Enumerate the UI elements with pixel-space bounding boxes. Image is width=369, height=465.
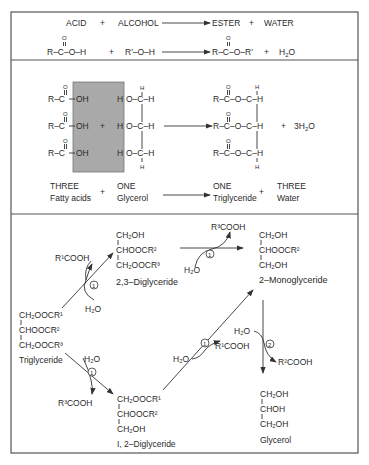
svg-text:H: H <box>117 148 123 158</box>
water-reagent: H₂O <box>173 354 189 364</box>
svg-text:H: H <box>255 84 259 90</box>
reaction-mono-to-glycerol: H₂O R²COOH 2 <box>234 300 312 373</box>
svg-text:H: H <box>117 121 123 131</box>
released-acid: R¹COOH <box>55 253 89 263</box>
svg-text:+: + <box>100 187 105 197</box>
label-acid: ACID <box>66 18 86 28</box>
svg-text:CH₂OOCR¹: CH₂OOCR¹ <box>19 310 63 320</box>
svg-text:O–C–H: O–C–H <box>126 148 154 158</box>
label-water: WATER <box>264 18 294 28</box>
panel-hydrolysis-pathway: CH₂OOCR¹ CHOOCR² CH₂OOCR³ Triglyceride C… <box>19 222 328 449</box>
svg-text:R–C: R–C <box>48 121 65 131</box>
panel-triglyceride-formation: O R–C OH O R–C OH O R–C OH + H H O–C–H H… <box>48 82 315 203</box>
svg-text:+: + <box>259 187 264 197</box>
water-reagent: H₂O <box>84 354 100 364</box>
acid-out-arrow <box>195 232 230 267</box>
svg-text:O: O <box>63 138 68 144</box>
svg-text:R–C–O–C–H: R–C–O–C–H <box>213 121 263 131</box>
svg-text:H: H <box>117 94 123 104</box>
glycerol-structure: CH₂OH CHOH CH₂OH Glycerol <box>260 389 291 445</box>
svg-text:Water: Water <box>277 193 300 203</box>
svg-text:OH: OH <box>76 121 89 131</box>
svg-text:R–C: R–C <box>48 148 65 158</box>
stoichiometry-labels: THREE Fatty acids + ONE Glycerol ONE Tri… <box>50 181 306 203</box>
svg-text:CHOOCR²: CHOOCR² <box>116 245 157 255</box>
svg-text:THREE: THREE <box>50 181 79 191</box>
svg-text:CH₂OH: CH₂OH <box>117 424 145 434</box>
triglyceride-structure: CH₂OOCR¹ CHOOCR² CH₂OOCR³ Triglyceride <box>19 310 63 365</box>
diagram-frame <box>11 12 358 453</box>
svg-text:CH₂OH: CH₂OH <box>260 389 288 399</box>
svg-text:THREE: THREE <box>277 181 306 191</box>
diglyceride-2-3-structure: CH₂OH CHOOCR² CH₂OOCR³ 2,3–Diglyceride <box>116 230 178 287</box>
plus-sign: + <box>281 121 286 131</box>
svg-text:Glycerol: Glycerol <box>117 193 148 203</box>
plus-sign: + <box>109 47 114 57</box>
water-reagent: H₂O <box>85 304 101 314</box>
diglyceride-1-2-structure: CH₂OOCR¹ CHOOCR² CH₂OH I, 2–Diglyceride <box>117 394 176 449</box>
svg-text:O: O <box>63 111 68 117</box>
svg-text:O–C–H: O–C–H <box>126 121 154 131</box>
monoglyceride-structure: CH₂OH CHOOCR² CH₂OH 2–Monoglyceride <box>259 230 328 285</box>
svg-text:H: H <box>140 164 144 170</box>
svg-text:ONE: ONE <box>117 181 136 191</box>
svg-text:CHOOCR²: CHOOCR² <box>117 409 158 419</box>
svg-text:Triglyceride: Triglyceride <box>19 355 63 365</box>
svg-text:CHOOCR²: CHOOCR² <box>19 325 60 335</box>
svg-text:ONE: ONE <box>213 181 232 191</box>
panel-esterification-general: ACID + ALCOHOL ESTER + WATER O R–C–O–H +… <box>47 18 295 58</box>
formula-water: H2O <box>279 47 295 58</box>
svg-text:OH: OH <box>76 148 89 158</box>
svg-text:O: O <box>226 84 231 90</box>
reaction-12-diglyceride-to-mono: H₂O R¹COOH 1 <box>163 290 253 390</box>
svg-text:Glycerol: Glycerol <box>260 435 291 445</box>
carbonyl-oxygen: O <box>226 35 231 41</box>
svg-text:O: O <box>226 111 231 117</box>
svg-text:R–C–O–C–H: R–C–O–C–H <box>213 94 263 104</box>
svg-text:2–Monoglyceride: 2–Monoglyceride <box>259 275 328 285</box>
svg-text:CH₂OOCR³: CH₂OOCR³ <box>116 260 160 270</box>
svg-text:Triglyceride: Triglyceride <box>213 193 257 203</box>
label-alcohol: ALCOHOL <box>118 18 159 28</box>
water-reagent: H₂O <box>184 265 200 275</box>
released-acid: R³COOH <box>58 398 92 408</box>
svg-text:CH₂OOCR³: CH₂OOCR³ <box>19 340 63 350</box>
lipid-hydrolysis-diagram: ACID + ALCOHOL ESTER + WATER O R–C–O–H +… <box>0 0 369 465</box>
reaction-tri-to-12-diglyceride: H₂O R³COOH 1 <box>58 353 113 408</box>
reaction-tri-to-23-diglyceride: R¹COOH H₂O 1 <box>55 253 113 314</box>
svg-text:CH₂OH: CH₂OH <box>116 230 144 240</box>
svg-text:CH₂OH: CH₂OH <box>259 230 287 240</box>
formula-alcohol: R′–O–H <box>125 47 155 57</box>
svg-text:CHOOCR²: CHOOCR² <box>259 245 300 255</box>
released-acid: R³COOH <box>211 222 245 232</box>
plus-sign: + <box>264 47 269 57</box>
svg-text:H: H <box>255 164 259 170</box>
svg-text:R–C–O–C–H: R–C–O–C–H <box>213 148 263 158</box>
plus-sign: + <box>100 121 105 131</box>
plus-sign: + <box>249 18 254 28</box>
glycerol-reactant: H H O–C–H H O–C–H H O–C–H H <box>117 85 154 170</box>
svg-text:CH₂OH: CH₂OH <box>259 260 287 270</box>
released-acid: R²COOH <box>278 357 312 367</box>
triglyceride-product: H O R–C–O–C–H O R–C–O–C–H O R–C–O–C–H H <box>213 84 263 170</box>
formula-ester: R–C–O–R′ <box>212 47 253 57</box>
label-ester: ESTER <box>212 18 240 28</box>
svg-text:R–C: R–C <box>48 94 65 104</box>
carbonyl-oxygen: O <box>62 35 67 41</box>
svg-text:O: O <box>63 84 68 90</box>
water-reagent: H₂O <box>234 326 250 336</box>
released-acid: R¹COOH <box>215 341 249 351</box>
water-product: 3H2O <box>294 121 315 132</box>
formula-acid: R–C–O–H <box>47 47 86 57</box>
svg-text:O: O <box>226 138 231 144</box>
svg-text:H: H <box>140 85 144 91</box>
svg-text:I, 2–Diglyceride: I, 2–Diglyceride <box>117 439 176 449</box>
svg-text:O–C–H: O–C–H <box>126 94 154 104</box>
svg-text:CH₂OOCR¹: CH₂OOCR¹ <box>117 394 161 404</box>
reaction-23-diglyceride-to-mono: R³COOH H₂O 1 <box>180 222 245 275</box>
svg-text:CHOH: CHOH <box>260 404 285 414</box>
plus-sign: + <box>100 18 105 28</box>
svg-text:CH₂OH: CH₂OH <box>260 419 288 429</box>
svg-text:2,3–Diglyceride: 2,3–Diglyceride <box>116 277 178 287</box>
svg-text:OH: OH <box>76 94 89 104</box>
